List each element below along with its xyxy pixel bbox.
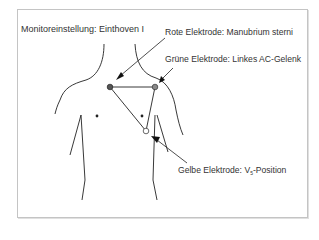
left-neck-shoulder-outline [55, 44, 104, 114]
red-pointer-line [120, 38, 165, 76]
green-pointer-line [162, 68, 173, 79]
red-electrode [107, 84, 113, 90]
left-flank-line [81, 115, 85, 200]
einthoven-triangle [110, 87, 155, 131]
yellow-electrode [143, 128, 149, 134]
left-nipple [96, 115, 99, 118]
yellow-label-suffix: -Position [253, 165, 286, 175]
yellow-electrode-label: Gelbe Elektrode: V5-Position [178, 165, 286, 178]
green-electrode [152, 84, 158, 90]
yellow-arrowhead-icon [151, 136, 160, 143]
diagram-title: Monitoreinstellung: Einthoven I [21, 24, 144, 34]
right-arm-line [157, 115, 168, 152]
green-electrode-label: Grüne Elektrode: Linkes AC-Gelenk [165, 54, 301, 64]
yellow-pointer-line [157, 140, 187, 163]
right-nipple [141, 115, 144, 118]
left-arm-line [70, 115, 81, 155]
right-flank-line [153, 115, 157, 200]
yellow-label-prefix: Gelbe Elektrode: V [178, 165, 250, 175]
red-electrode-label: Rote Elektrode: Manubrium sterni [165, 27, 293, 37]
